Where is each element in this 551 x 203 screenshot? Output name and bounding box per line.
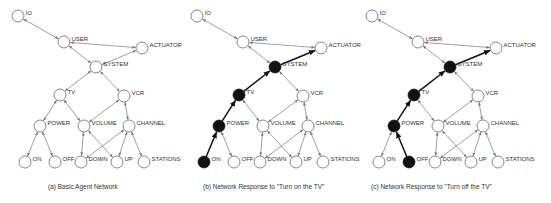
node-down: [429, 156, 441, 168]
edge-user-system: [69, 46, 91, 63]
node-io: [191, 10, 203, 22]
node-label-channel: CHANNEL: [137, 120, 166, 126]
edge-tv-volume: [64, 100, 80, 121]
node-io: [366, 10, 378, 22]
node-off: [49, 156, 61, 168]
edge-volume-down: [436, 132, 438, 155]
edge-volume-up: [88, 131, 112, 157]
node-label-on: ON: [212, 156, 221, 162]
node-label-up: UP: [479, 156, 487, 162]
node-label-up: UP: [125, 156, 133, 162]
node-vcr: [297, 90, 309, 102]
network-diagrams: IOUSERACTUATORSYSTEMTVVCRPOWERVOLUMECHAN…: [0, 0, 551, 180]
caption-panel-b: (b) Network Response to "Turn on the TV": [203, 183, 324, 190]
edge-tv-volume: [243, 100, 259, 121]
node-label-actuator: ACTUATOR: [150, 42, 183, 48]
active-edge-off-power: [397, 132, 407, 156]
edge-vcr-channel: [304, 102, 307, 119]
node-up: [111, 156, 123, 168]
panel-c: IOUSERACTUATORSYSTEMTVVCRPOWERVOLUMECHAN…: [366, 10, 537, 168]
edge-user-actuator: [70, 42, 135, 47]
edge-channel-stations: [311, 132, 321, 156]
edge-channel-up: [473, 132, 481, 156]
node-label-down: DOWN: [443, 156, 462, 162]
node-off: [403, 156, 415, 168]
node-power: [34, 120, 46, 132]
node-volume: [78, 120, 90, 132]
node-io: [12, 10, 24, 22]
node-label-stations: STATIONS: [331, 156, 360, 162]
edge-io-user: [24, 19, 59, 39]
edge-vcr-volume: [443, 100, 473, 122]
node-down: [254, 156, 266, 168]
edge-channel-stations: [132, 132, 142, 156]
node-label-actuator: ACTUATOR: [504, 42, 537, 48]
node-power: [388, 120, 400, 132]
node-user: [237, 36, 249, 48]
panel-b: IOUSERACTUATORSYSTEMTVVCRPOWERVOLUMECHAN…: [191, 10, 362, 168]
agent-network-figure: IOUSERACTUATORSYSTEMTVVCRPOWERVOLUMECHAN…: [0, 0, 551, 203]
node-channel: [302, 120, 314, 132]
node-channel: [477, 120, 489, 132]
panel-a: IOUSERACTUATORSYSTEMTVVCRPOWERVOLUMECHAN…: [12, 10, 183, 168]
edge-system-vcr: [280, 72, 299, 92]
edge-vcr-channel: [125, 102, 128, 119]
node-stations: [492, 156, 504, 168]
node-actuator: [136, 42, 148, 54]
edge-power-off: [43, 132, 53, 156]
edge-user-actuator: [424, 42, 489, 47]
node-system: [444, 61, 456, 73]
node-label-io: IO: [205, 10, 212, 16]
node-user: [412, 36, 424, 48]
node-label-power: POWER: [48, 120, 71, 126]
node-on: [198, 156, 210, 168]
node-label-down: DOWN: [268, 156, 287, 162]
edge-volume-down: [261, 132, 263, 155]
node-label-tv: TV: [68, 89, 76, 95]
node-volume: [257, 120, 269, 132]
edge-io-user: [203, 19, 238, 39]
node-label-down: DOWN: [89, 156, 108, 162]
edge-user-actuator: [249, 42, 314, 47]
node-label-io: IO: [26, 10, 33, 16]
node-up: [465, 156, 477, 168]
node-label-channel: CHANNEL: [491, 120, 520, 126]
node-actuator: [315, 42, 327, 54]
edge-power-on: [382, 132, 392, 156]
node-vcr: [118, 90, 130, 102]
node-up: [290, 156, 302, 168]
edge-power-off: [222, 132, 232, 156]
edge-user-system: [248, 46, 270, 63]
node-volume: [432, 120, 444, 132]
node-label-system: SYSTEM: [283, 61, 308, 67]
node-label-up: UP: [304, 156, 312, 162]
edge-vcr-channel: [479, 102, 482, 119]
node-on: [373, 156, 385, 168]
node-label-power: POWER: [227, 120, 250, 126]
node-system: [269, 61, 281, 73]
active-edge-on-power: [206, 132, 216, 156]
node-label-on: ON: [33, 156, 42, 162]
edge-volume-up: [442, 131, 466, 157]
edge-power-on: [28, 132, 38, 156]
edge-system-vcr: [101, 72, 120, 92]
node-label-system: SYSTEM: [104, 61, 129, 67]
node-label-off: OFF: [417, 156, 429, 162]
node-label-user: USER: [426, 36, 443, 42]
node-label-io: IO: [380, 10, 387, 16]
node-label-vcr: VCR: [132, 90, 145, 96]
edge-vcr-volume: [268, 100, 298, 122]
node-label-user: USER: [251, 36, 268, 42]
node-vcr: [472, 90, 484, 102]
node-tv: [233, 89, 245, 101]
node-label-stations: STATIONS: [506, 156, 535, 162]
node-label-tv: TV: [422, 89, 430, 95]
node-label-off: OFF: [242, 156, 254, 162]
active-edge-power-tv: [397, 100, 410, 120]
edge-tv-volume: [418, 100, 434, 121]
node-down: [75, 156, 87, 168]
node-label-volume: VOLUME: [92, 120, 117, 126]
edge-volume-down: [82, 132, 84, 155]
node-power: [213, 120, 225, 132]
edge-system-vcr: [455, 72, 474, 92]
